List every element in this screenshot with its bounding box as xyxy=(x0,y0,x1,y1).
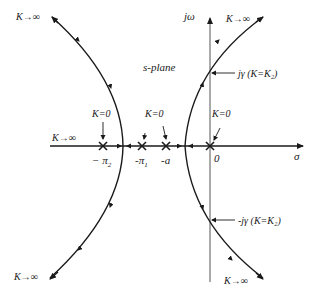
k0-label-pole-2: K=0 xyxy=(144,108,163,119)
origin-label: 0 xyxy=(214,152,220,164)
k0-pointer xyxy=(214,128,220,140)
real-axis-label: σ xyxy=(294,150,300,162)
bottom-right-arrow xyxy=(256,273,263,279)
plane-label: s-plane xyxy=(143,61,176,73)
asymptote-label-top-left: K→∞ xyxy=(15,11,40,22)
right-locus-branch xyxy=(185,17,263,278)
pole-label-pi2: − π2 xyxy=(92,154,112,169)
lower-crossing-label: -jγ (K=K₂) xyxy=(238,215,281,227)
pole-label-a: -a xyxy=(161,154,171,166)
imag-axis-label: jω xyxy=(182,10,195,22)
pole-label-pi1: -π1 xyxy=(135,154,148,169)
k0-pointer xyxy=(144,133,145,139)
upper-crossing-label: jγ (K=K₂) xyxy=(236,68,278,80)
asymptote-label-top-right: K→∞ xyxy=(225,13,250,24)
root-locus-diagram: s-plane jω σ 0 K→∞ K→∞ K→∞ K→∞ K→∞ K=0 K… xyxy=(0,0,316,295)
k0-label-pole-1: K=0 xyxy=(91,108,110,119)
k0-label-pole-4: K=0 xyxy=(211,108,230,119)
asymptote-label-real-axis: K→∞ xyxy=(51,132,76,143)
bottom-left-arrow xyxy=(50,272,58,279)
asymptote-label-bottom-right: K→∞ xyxy=(223,275,248,286)
k0-pointer xyxy=(163,126,166,139)
asymptote-label-bottom-left: K→∞ xyxy=(13,271,38,282)
left-locus-branch xyxy=(50,17,123,278)
top-left-arrow xyxy=(52,17,58,23)
top-right-arrow xyxy=(256,17,263,22)
